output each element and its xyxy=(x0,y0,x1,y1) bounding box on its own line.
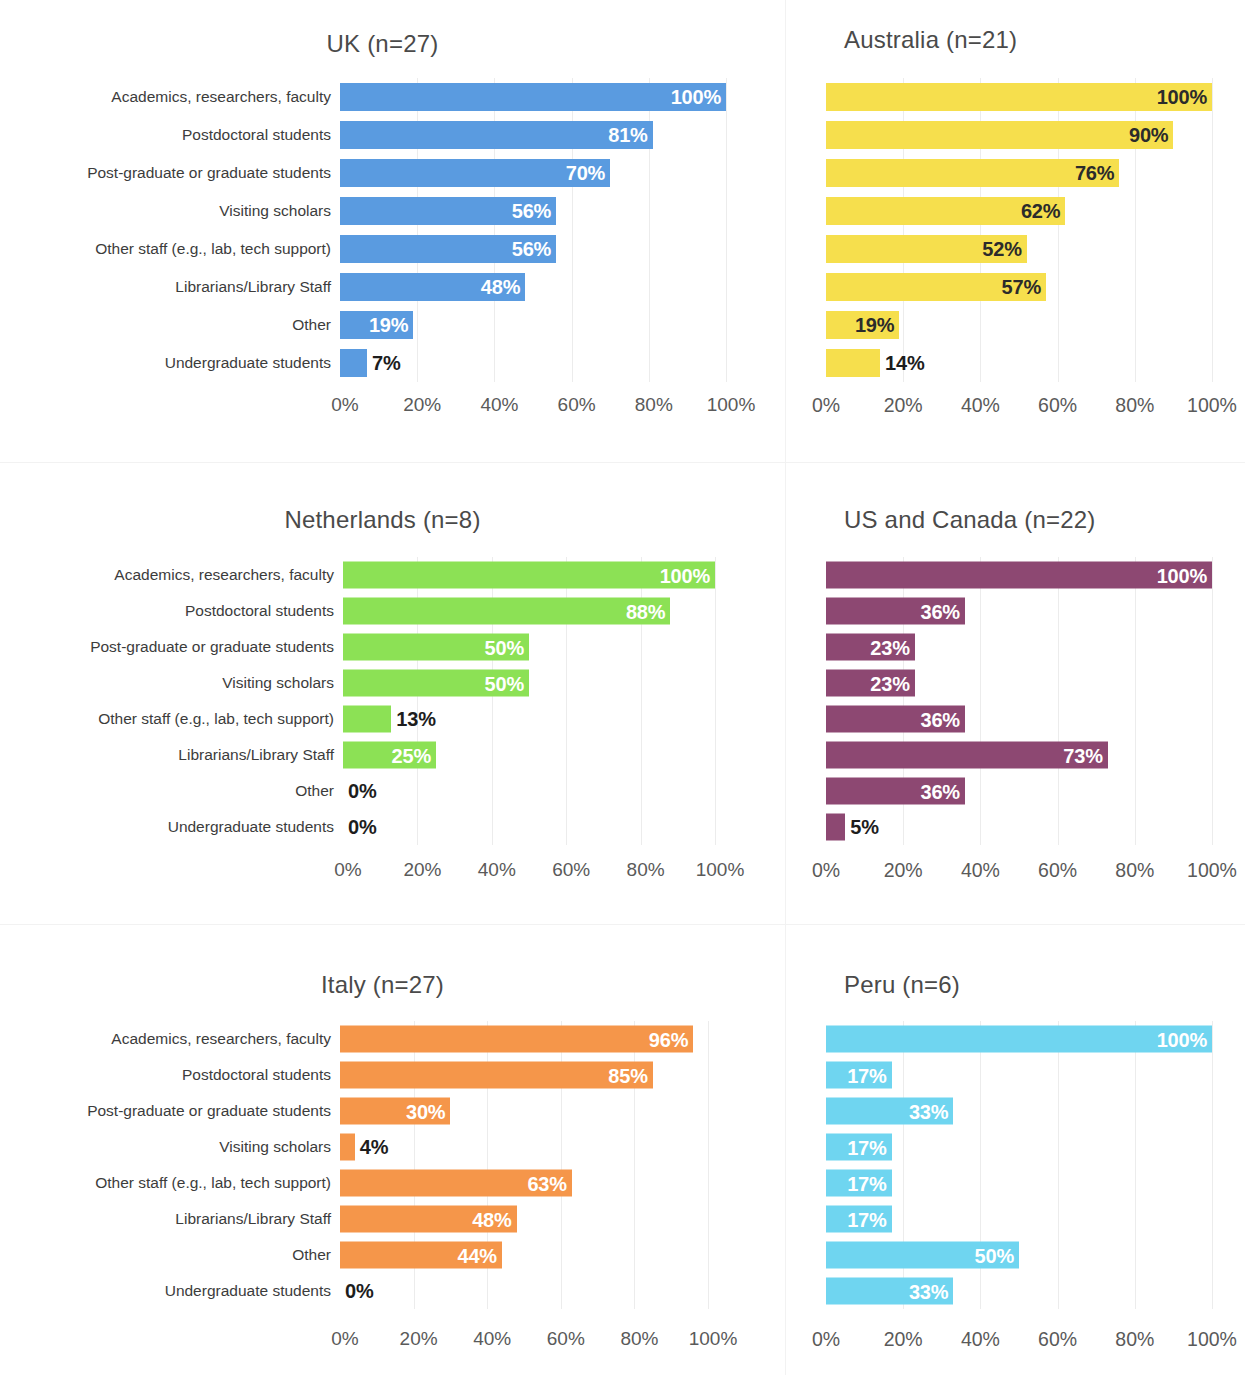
gridline xyxy=(1212,629,1213,665)
x-axis-australia: 0%20%40%60%80%100% xyxy=(786,392,1245,418)
bar-row: Other staff (e.g., lab, tech support)13% xyxy=(0,701,785,737)
gridline xyxy=(1212,306,1213,344)
bar-row: Other0% xyxy=(0,773,785,809)
gridline xyxy=(634,1237,635,1273)
x-axis-tick: 60% xyxy=(547,1326,585,1352)
gridline xyxy=(414,1273,415,1309)
bar: 56% xyxy=(340,197,556,225)
x-axis-tick: 60% xyxy=(1038,857,1077,883)
bar-row: 50% xyxy=(786,1237,1245,1273)
x-axis-tick: 100% xyxy=(707,392,756,418)
bar-row: Visiting scholars4% xyxy=(0,1129,785,1165)
bar-value-label: 36% xyxy=(921,601,965,621)
gridline xyxy=(715,629,716,665)
bar: 81% xyxy=(340,121,653,149)
gridline xyxy=(566,737,567,773)
bar: 88% xyxy=(343,598,670,625)
gridline xyxy=(494,344,495,382)
bar-value-label: 56% xyxy=(512,201,556,221)
bar: 100% xyxy=(826,83,1212,111)
x-axis-tick: 0% xyxy=(331,392,358,418)
category-label: Other staff (e.g., lab, tech support) xyxy=(0,1175,340,1191)
bar-track: 50% xyxy=(343,629,715,665)
gridline xyxy=(1058,665,1059,701)
bar: 36% xyxy=(826,706,965,733)
bar xyxy=(343,706,391,733)
bar-value-label: 96% xyxy=(649,1029,693,1049)
bar-track: 48% xyxy=(340,268,726,306)
chart-area-peru: 100%17%33%17%17%17%50%33% 0%20%40%60%80%… xyxy=(786,1021,1245,1309)
gridline xyxy=(1212,737,1213,773)
bar-value-label: 44% xyxy=(457,1245,501,1265)
gridline xyxy=(1135,154,1136,192)
bar-track: 50% xyxy=(343,665,715,701)
x-axis-tick: 60% xyxy=(1038,1326,1077,1352)
gridline xyxy=(649,230,650,268)
gridline xyxy=(492,701,493,737)
gridline xyxy=(572,192,573,230)
bar-track: 44% xyxy=(340,1237,708,1273)
bar: 70% xyxy=(340,159,610,187)
gridline xyxy=(1058,344,1059,382)
bar-value-label: 30% xyxy=(406,1101,450,1121)
x-axis-tick: 40% xyxy=(961,1326,1000,1352)
gridline xyxy=(1058,1201,1059,1237)
gridline xyxy=(572,230,573,268)
category-label: Other xyxy=(0,1247,340,1263)
bar-track: 14% xyxy=(826,344,1212,382)
bar-value-label: 50% xyxy=(485,673,529,693)
category-label: Other xyxy=(0,317,340,333)
gridline xyxy=(641,629,642,665)
bar-row: 36% xyxy=(786,701,1245,737)
bar-track: 76% xyxy=(826,154,1212,192)
bar: 57% xyxy=(826,273,1046,301)
gridline xyxy=(1212,593,1213,629)
gridline xyxy=(980,1057,981,1093)
bar: 85% xyxy=(340,1062,653,1089)
gridline xyxy=(1212,1057,1213,1093)
bar-row: 36% xyxy=(786,773,1245,809)
chart-area-us-and-canada: 100%36%23%23%36%73%36%5% 0%20%40%60%80%1… xyxy=(786,557,1245,845)
bar: 48% xyxy=(340,1206,517,1233)
gridline xyxy=(634,1165,635,1201)
bar-row: 17% xyxy=(786,1165,1245,1201)
gridline xyxy=(715,701,716,737)
x-axis-tick: 20% xyxy=(400,1326,438,1352)
category-label: Undergraduate students xyxy=(0,819,343,835)
x-axis-tick: 100% xyxy=(1187,392,1237,418)
bar-value-label: 76% xyxy=(1075,163,1119,183)
x-axis-tick: 20% xyxy=(403,857,441,883)
category-label: Other staff (e.g., lab, tech support) xyxy=(0,711,343,727)
gridline xyxy=(649,306,650,344)
bar-value-label: 56% xyxy=(512,239,556,259)
gridline xyxy=(1058,1165,1059,1201)
gridline xyxy=(566,701,567,737)
bar-value-label: 90% xyxy=(1129,125,1173,145)
bar-track: 100% xyxy=(826,1021,1212,1057)
bar-value-label: 48% xyxy=(472,1209,516,1229)
bar-track: 90% xyxy=(826,116,1212,154)
panel-title-us-and-canada: US and Canada (n=22) xyxy=(844,506,1245,534)
gridline xyxy=(1058,629,1059,665)
bar-value-label: 52% xyxy=(982,239,1026,259)
gridline xyxy=(980,665,981,701)
bar-value-label: 19% xyxy=(855,315,899,335)
bar-row: Postdoctoral students88% xyxy=(0,593,785,629)
gridline xyxy=(726,154,727,192)
bar-value-label: 63% xyxy=(527,1173,571,1193)
gridline xyxy=(708,1129,709,1165)
bar: 25% xyxy=(343,742,436,769)
bar-row: 100% xyxy=(786,78,1245,116)
bar xyxy=(826,814,845,841)
bar: 19% xyxy=(340,311,413,339)
bar-row: Academics, researchers, faculty96% xyxy=(0,1021,785,1057)
gridline xyxy=(1212,78,1213,116)
x-axis-tick: 60% xyxy=(1038,392,1077,418)
gridline xyxy=(1212,1273,1213,1309)
bar-track: 33% xyxy=(826,1093,1212,1129)
bar-row: Post-graduate or graduate students70% xyxy=(0,154,785,192)
gridline xyxy=(492,773,493,809)
gridline xyxy=(566,665,567,701)
gridline xyxy=(1135,1057,1136,1093)
category-label: Librarians/Library Staff xyxy=(0,279,340,295)
